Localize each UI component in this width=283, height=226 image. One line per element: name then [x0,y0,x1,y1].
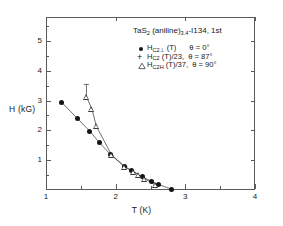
y-axis-tick-right [251,41,255,42]
y-axis-tick [46,101,51,102]
chart-title: TaS2 (aniline)3.4-I134, 1st [133,26,222,35]
plus-icon: + [136,53,147,62]
x-axis-tick-top [116,17,117,21]
x-axis-tick-label: 3 [175,192,195,202]
legend-sub-hc2perp: C2⊥ [152,47,164,53]
legend-sub-hc2h: C2H [152,64,163,70]
legend-sub-hc2: C2 [152,55,159,61]
chart-title-ligand: (aniline) [150,26,181,35]
y-axis-tick-right [251,130,255,131]
x-axis-tick-top [46,17,47,21]
y-axis-tick [46,71,51,72]
chart-title-compound-sub: 2 [147,30,150,36]
y-axis-minor-tick [46,175,49,176]
x-axis-tick-top [255,17,256,21]
y-axis-tick-label: 2 [26,125,42,135]
figure-canvas: 123412345 +++++ TaS2 (aniline)3.4-I134, … [0,0,283,226]
x-axis-tick [116,184,117,189]
y-axis-tick [46,160,51,161]
chart-legend: HC2⊥ (T) θ = 0° + HC2 (T)/23, θ = 87° HC… [136,44,217,70]
chart-title-sample: -I134, 1st [188,26,221,35]
y-axis-tick-right [251,71,255,72]
x-axis-tick [185,184,186,189]
x-axis-tick-label: 4 [245,192,265,202]
x-axis-minor-tick [220,186,221,189]
y-axis-title: H (kG) [9,104,35,114]
x-axis-title: T (K) [0,205,283,215]
x-axis-tick [46,184,47,189]
y-axis-tick-label: 5 [26,36,42,46]
legend-item-hc2h: HC2H (T)/37, θ = 90° [136,61,217,70]
y-axis-minor-tick [46,86,49,87]
y-axis-tick [46,130,51,131]
y-axis-minor-tick [46,26,49,27]
y-axis-tick-label: 4 [26,66,42,76]
x-axis-minor-tick [81,186,82,189]
y-axis-tick-right [251,160,255,161]
y-axis-minor-tick [46,115,49,116]
x-axis-tick-top [185,17,186,21]
chart-title-compound: TaS [133,26,147,35]
legend-angle-hc2h: θ = 90° [192,61,216,70]
chart-title-ligand-sub: 3.4 [181,30,189,36]
x-axis-tick-label: 1 [36,192,56,202]
y-axis-minor-tick [46,56,49,57]
x-axis-tick-label: 2 [106,192,126,202]
open-triangle-icon [136,61,147,70]
y-axis-tick-label: 1 [26,155,42,165]
x-axis-minor-tick [151,186,152,189]
y-axis-tick [46,41,51,42]
x-axis-tick [255,184,256,189]
y-axis-tick-right [251,101,255,102]
legend-label-hc2h: HC2H (T)/37, [147,61,188,70]
y-axis-minor-tick [46,145,49,146]
